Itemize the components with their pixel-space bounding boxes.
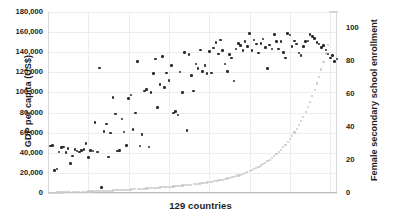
data-point-enrollment [327,53,330,56]
data-point-enrollment [56,168,59,171]
data-point-gdp [309,101,311,103]
data-point-gdp [336,11,338,13]
y-axis-left-tick-label: 160,000 [0,28,47,36]
data-point-enrollment [71,155,74,158]
data-point-gdp [284,144,286,146]
data-point-enrollment [156,106,159,109]
data-point-enrollment [139,145,142,148]
y-axis-left-tick-label: 60,000 [0,129,47,137]
data-point-enrollment [105,123,108,126]
y-axis-left-ticks: 020,00040,00060,00080,000100,000120,0001… [0,0,47,218]
data-point-gdp [296,128,298,130]
data-point-enrollment [302,45,305,48]
data-point-enrollment [136,60,139,63]
gridline-vertical [129,12,130,193]
data-point-enrollment [118,149,121,152]
data-point-enrollment [159,83,162,86]
data-point-enrollment [141,133,144,136]
data-point-gdp [311,95,313,97]
data-point-gdp [322,61,324,63]
gridline-horizontal [48,173,337,174]
data-point-enrollment [181,91,184,94]
data-point-gdp [300,120,302,122]
y-axis-right-tick-label: 0 [341,189,376,197]
data-point-enrollment [300,54,303,57]
data-point-enrollment [145,88,148,91]
data-point-enrollment [150,91,153,94]
data-point-enrollment [282,51,285,54]
data-point-enrollment [239,44,242,47]
data-point-enrollment [242,49,245,52]
y-axis-right-tick-label: 60 [341,90,376,98]
data-point-enrollment [268,44,271,47]
y-axis-right-ticks: 020406080100 [341,0,371,218]
data-point-enrollment [87,156,90,159]
data-point-gdp [273,155,275,157]
plot-border-right [336,12,337,193]
data-point-enrollment [148,146,151,149]
y-axis-left-tick-label: 180,000 [0,8,47,16]
data-point-gdp [318,76,320,78]
data-point-enrollment [183,51,186,54]
y-axis-right-tick-label: 20 [341,156,376,164]
data-point-gdp [287,141,289,143]
data-point-enrollment [251,49,254,52]
data-point-enrollment [262,38,265,41]
data-point-enrollment [163,86,166,89]
y-axis-left-tick-label: 20,000 [0,169,47,177]
gridline-horizontal [48,12,337,13]
data-point-enrollment [62,146,65,149]
data-point-enrollment [125,144,128,147]
y-axis-right-tick-label: 100 [341,24,376,32]
data-point-enrollment [284,57,287,60]
data-point-gdp [293,131,295,133]
data-point-enrollment [197,67,200,70]
data-point-enrollment [271,48,274,51]
y-axis-left-tick-label: 80,000 [0,109,47,117]
y-axis-right-tick-label: 40 [341,123,376,131]
gridline-horizontal [48,32,337,33]
data-point-enrollment [331,54,334,57]
gridline-horizontal [48,72,337,73]
data-point-enrollment [186,129,189,132]
data-point-enrollment [212,47,215,50]
data-point-enrollment [221,49,224,52]
data-point-enrollment [215,41,218,44]
data-point-gdp [291,135,293,137]
data-point-enrollment [264,46,267,49]
gridline-horizontal [48,153,337,154]
data-point-enrollment [152,72,155,75]
data-point-enrollment [336,58,339,61]
y-axis-left-tick-label: 40,000 [0,149,47,157]
data-point-enrollment [134,112,137,115]
data-point-enrollment [67,147,70,150]
data-point-enrollment [325,49,328,52]
data-point-gdp [278,151,280,153]
data-point-enrollment [114,113,117,116]
data-point-enrollment [273,33,276,36]
data-point-enrollment [201,70,204,73]
y-axis-left-tick-label: 120,000 [0,68,47,76]
data-point-enrollment [132,128,135,131]
data-point-enrollment [85,142,88,145]
gridline-vertical [209,12,210,193]
data-point-gdp [320,68,322,70]
data-point-enrollment [51,144,54,147]
data-point-enrollment [257,52,260,55]
data-point-enrollment [275,40,278,43]
data-point-gdp [271,157,273,159]
data-point-enrollment [228,53,231,56]
data-point-enrollment [195,63,198,66]
data-point-gdp [275,153,277,155]
data-point-enrollment [168,79,171,82]
data-point-enrollment [253,39,256,42]
data-point-enrollment [170,64,173,67]
data-point-enrollment [291,45,294,48]
data-point-enrollment [266,67,269,70]
data-point-gdp [280,149,282,151]
data-point-enrollment [233,80,236,83]
chart-container: GDP per capita (US$) Female secondary sc… [0,0,401,218]
data-point-enrollment [280,40,283,43]
data-point-enrollment [217,53,220,56]
gridline-vertical [88,12,89,193]
